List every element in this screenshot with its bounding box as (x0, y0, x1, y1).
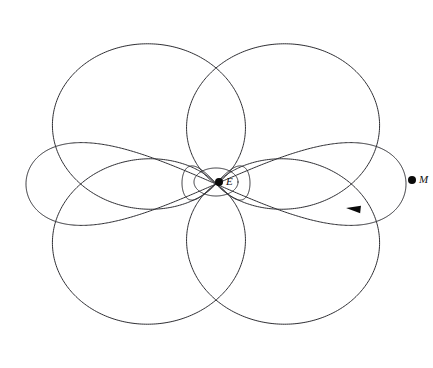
central-body-dot (215, 178, 223, 186)
orbiting-body-dot (408, 176, 416, 184)
orbit-figure: E M (0, 0, 433, 368)
body-dots-group (215, 176, 416, 186)
central-body-label: E (226, 176, 233, 187)
direction-markers-group (346, 206, 361, 214)
direction-arrow-icon (346, 206, 361, 214)
orbiting-body-label: M (419, 174, 428, 185)
orbit-diagram-canvas (0, 0, 433, 368)
